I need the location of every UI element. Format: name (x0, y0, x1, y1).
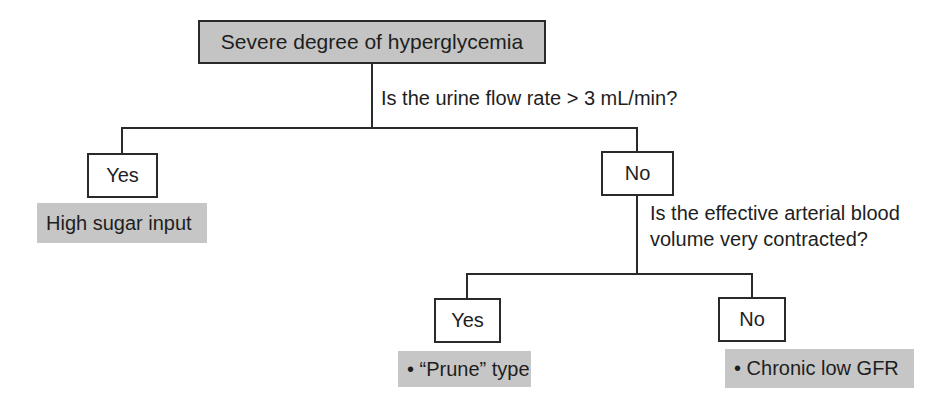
result-chronic-low-gfr-label: • Chronic low GFR (734, 357, 899, 380)
result-prune-type: • “Prune” type (398, 351, 531, 387)
root-node-label: Severe degree of hyperglycemia (221, 30, 523, 54)
connector-level2-bar (466, 273, 753, 275)
result-chronic-low-gfr: • Chronic low GFR (725, 349, 914, 388)
result-prune-type-label: • “Prune” type (407, 358, 530, 381)
question-1-text: Is the urine flow rate > 3 mL/min? (381, 87, 677, 109)
connector-yes2-stem (466, 273, 468, 299)
no-node-2: No (718, 297, 786, 342)
connector-yes1-stem (121, 127, 123, 154)
question-2-line1: Is the effective arterial blood (650, 200, 900, 226)
yes-node-2: Yes (434, 298, 501, 343)
connector-no2-stem (751, 273, 753, 298)
no-node-2-label: No (739, 308, 765, 331)
connector-level1-bar (121, 127, 638, 129)
result-high-sugar-input-label: High sugar input (46, 212, 192, 235)
question-2: Is the effective arterial blood volume v… (650, 200, 900, 252)
yes-node-2-label: Yes (451, 309, 484, 332)
connector-no1-stem (636, 127, 638, 152)
question-2-line2: volume very contracted? (650, 226, 900, 252)
no-node-1-label: No (625, 162, 651, 185)
no-node-1: No (601, 151, 674, 196)
flowchart: Severe degree of hyperglycemia Is the ur… (0, 0, 947, 396)
connector-root-stem (371, 63, 373, 129)
connector-no1-down (636, 195, 638, 275)
yes-node-1: Yes (87, 153, 158, 198)
result-high-sugar-input: High sugar input (37, 203, 207, 243)
root-node: Severe degree of hyperglycemia (198, 20, 546, 64)
yes-node-1-label: Yes (106, 164, 139, 187)
question-1: Is the urine flow rate > 3 mL/min? (381, 85, 677, 111)
